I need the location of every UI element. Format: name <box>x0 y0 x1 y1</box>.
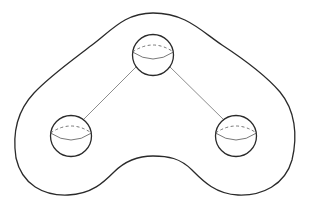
connection-top-left <box>83 66 137 120</box>
sphere-top <box>133 35 174 76</box>
sphere-right <box>216 116 257 157</box>
diagram-canvas <box>0 0 310 208</box>
sphere-left <box>51 116 92 157</box>
connection-top-right <box>169 66 224 120</box>
surface-diagram <box>0 0 310 208</box>
